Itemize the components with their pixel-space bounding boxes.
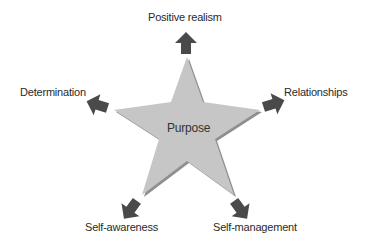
node-label-positive-realism: Positive realism [148, 11, 222, 23]
node-label-self-management: Self-management [213, 221, 297, 233]
node-label-self-awareness: Self-awareness [85, 221, 158, 233]
arrow-left-icon [83, 91, 111, 119]
center-label-purpose: Purpose [167, 121, 210, 135]
arrow-up-icon [175, 32, 197, 54]
node-label-determination: Determination [20, 86, 86, 98]
node-label-relationships: Relationships [284, 86, 347, 98]
